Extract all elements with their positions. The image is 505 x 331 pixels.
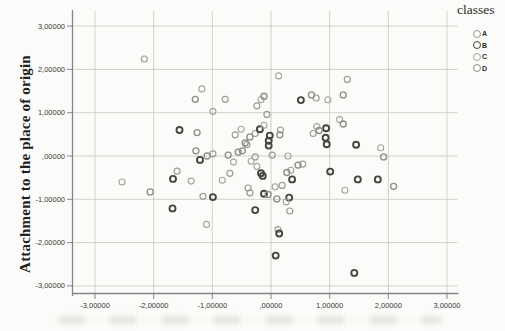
y-axis-title: Attachment to the place of origin bbox=[17, 18, 37, 310]
data-point-class-B bbox=[289, 176, 295, 182]
data-point-class-D bbox=[309, 92, 315, 98]
data-point-class-A bbox=[269, 152, 275, 158]
data-point-class-D bbox=[340, 92, 346, 98]
data-point-class-C bbox=[342, 187, 348, 193]
data-point-class-A bbox=[222, 96, 228, 102]
data-point-class-B bbox=[170, 176, 176, 182]
y-tick-label: 1,00000 bbox=[38, 108, 65, 117]
data-point-class-C bbox=[210, 108, 216, 114]
data-point-class-D bbox=[274, 196, 280, 202]
data-point-class-D bbox=[147, 189, 153, 195]
data-point-class-A bbox=[200, 193, 206, 199]
data-point-class-B bbox=[286, 195, 292, 201]
data-point-class-A bbox=[279, 182, 285, 188]
data-point-class-D bbox=[192, 96, 198, 102]
data-point-class-C bbox=[219, 177, 225, 183]
plot-area: 3,000002,000001,00000,00000-1,00000-2,00… bbox=[0, 0, 505, 331]
data-point-class-C bbox=[254, 163, 260, 169]
data-point-class-C bbox=[272, 184, 278, 190]
legend-label-A: A bbox=[482, 30, 487, 37]
data-point-class-B bbox=[210, 194, 216, 200]
data-point-class-B bbox=[355, 176, 361, 182]
y-tick-label: -2,00000 bbox=[35, 238, 65, 247]
x-tick-label: ,00000 bbox=[260, 301, 283, 310]
x-tick-label: 3,00000 bbox=[433, 301, 460, 310]
legend-label-D: D bbox=[482, 65, 487, 72]
data-point-class-B bbox=[266, 143, 272, 149]
legend-marker-C bbox=[473, 53, 481, 61]
data-point-class-C bbox=[119, 179, 125, 185]
data-point-class-A bbox=[310, 131, 316, 137]
data-point-class-C bbox=[199, 86, 205, 92]
data-point-class-A bbox=[232, 132, 238, 138]
data-point-class-C bbox=[378, 145, 384, 151]
data-point-class-D bbox=[391, 183, 397, 189]
data-point-class-B bbox=[327, 169, 333, 175]
data-point-class-A bbox=[141, 56, 147, 62]
legend-label-B: B bbox=[482, 42, 487, 49]
data-point-class-A bbox=[174, 168, 180, 174]
data-point-class-B bbox=[197, 157, 203, 163]
data-point-class-C bbox=[188, 178, 194, 184]
data-point-class-B bbox=[324, 141, 330, 147]
data-point-class-A bbox=[287, 208, 293, 214]
y-tick-label: 2,00000 bbox=[38, 65, 65, 74]
data-point-class-C bbox=[276, 73, 282, 79]
data-point-class-B bbox=[323, 135, 329, 141]
data-point-class-B bbox=[252, 207, 258, 213]
data-point-class-D bbox=[247, 134, 253, 140]
data-point-class-C bbox=[238, 126, 244, 132]
legend-marker-A bbox=[473, 30, 481, 38]
data-point-class-A bbox=[227, 170, 233, 176]
x-tick-label: -3,00000 bbox=[80, 301, 110, 310]
data-point-class-D bbox=[193, 148, 199, 154]
data-point-class-B bbox=[170, 205, 176, 211]
data-point-class-D bbox=[194, 130, 200, 136]
y-tick-label: ,00000 bbox=[42, 152, 65, 161]
legend-label-C: C bbox=[482, 53, 487, 60]
data-point-class-D bbox=[225, 152, 231, 158]
data-point-class-D bbox=[381, 154, 387, 160]
data-point-class-B bbox=[273, 253, 279, 259]
data-point-class-C bbox=[261, 122, 267, 128]
data-point-class-B bbox=[298, 97, 304, 103]
data-point-class-A bbox=[254, 103, 260, 109]
data-point-class-B bbox=[375, 176, 381, 182]
scatterplot-figure: 3,000002,000001,00000,00000-1,00000-2,00… bbox=[0, 0, 505, 331]
legend-item-D: D bbox=[473, 63, 505, 75]
data-point-class-A bbox=[344, 76, 350, 82]
legend-marker-D bbox=[473, 64, 481, 72]
data-point-class-B bbox=[351, 270, 357, 276]
legend-items: ABCD bbox=[451, 28, 505, 74]
legend-marker-B bbox=[473, 41, 481, 49]
data-point-class-C bbox=[248, 158, 254, 164]
x-tick-label: -2,00000 bbox=[139, 301, 169, 310]
scan-artifact bbox=[58, 316, 442, 324]
legend-title: classes bbox=[457, 2, 505, 18]
legend-item-B: B bbox=[473, 40, 505, 52]
x-tick-label: 2,00000 bbox=[375, 301, 402, 310]
data-point-class-B bbox=[323, 125, 329, 131]
data-point-class-C bbox=[204, 221, 210, 227]
data-point-class-B bbox=[177, 127, 183, 133]
y-tick-label: -1,00000 bbox=[35, 195, 65, 204]
data-point-class-B bbox=[276, 231, 282, 237]
x-tick-label: -1,00000 bbox=[198, 301, 228, 310]
data-point-class-B bbox=[353, 142, 359, 148]
y-tick-label: 3,00000 bbox=[38, 22, 65, 31]
legend-item-C: C bbox=[473, 51, 505, 63]
x-tick-label: 1,00000 bbox=[316, 301, 343, 310]
y-tick-label: -3,00000 bbox=[35, 281, 65, 290]
data-point-class-C bbox=[231, 159, 237, 165]
legend: classes ABCD bbox=[451, 2, 505, 74]
legend-item-A: A bbox=[473, 28, 505, 40]
data-point-class-D bbox=[340, 121, 346, 127]
